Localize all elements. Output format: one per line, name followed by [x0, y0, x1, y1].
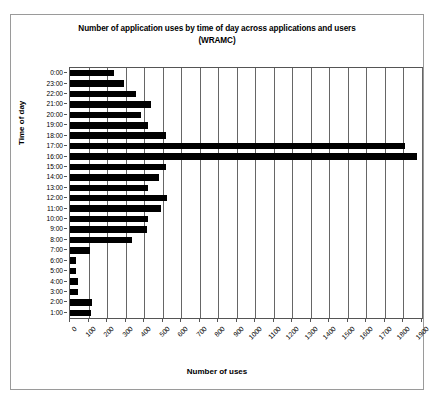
bar[interactable]	[70, 237, 132, 243]
bar-series	[70, 68, 422, 318]
y-tick-mark	[64, 197, 67, 198]
y-tick-mark	[64, 281, 67, 282]
bar-row	[70, 68, 422, 78]
bar[interactable]	[70, 247, 90, 253]
bar[interactable]	[70, 91, 136, 97]
bar[interactable]	[70, 164, 166, 170]
bar-row	[70, 120, 422, 130]
bar[interactable]	[70, 143, 405, 149]
y-tick-label: 22:00	[46, 90, 63, 97]
y-tick-label: 7:00	[50, 246, 63, 253]
bar[interactable]	[70, 70, 114, 76]
y-tick-label: 18:00	[46, 131, 63, 138]
y-tick-mark	[64, 156, 67, 157]
bar-row	[70, 78, 422, 88]
y-tick-label: 21:00	[46, 100, 63, 107]
chart-title: Number of application uses by time of da…	[11, 23, 423, 47]
bar-row	[70, 297, 422, 307]
bar[interactable]	[70, 101, 151, 107]
bar[interactable]	[70, 268, 76, 274]
bar[interactable]	[70, 205, 161, 211]
bar-row	[70, 256, 422, 266]
gridline	[422, 68, 423, 318]
y-tick-label: 15:00	[46, 162, 63, 169]
bar-row	[70, 172, 422, 182]
y-tick-label: 12:00	[46, 194, 63, 201]
bar[interactable]	[70, 226, 147, 232]
bar-row	[70, 308, 422, 318]
bar-row	[70, 235, 422, 245]
y-tick-mark	[64, 249, 67, 250]
y-tick-label: 6:00	[50, 256, 63, 263]
chart-title-line2: (WRAMC)	[11, 35, 423, 47]
y-tick-mark	[64, 239, 67, 240]
bar-row	[70, 162, 422, 172]
x-tick-mark	[273, 319, 274, 322]
bar[interactable]	[70, 174, 159, 180]
x-axis-tick-labels: 0100200300400500600700800900100011001200…	[69, 319, 421, 363]
y-tick-label: 5:00	[50, 267, 63, 274]
bar-row	[70, 99, 422, 109]
y-tick-label: 14:00	[46, 173, 63, 180]
bar[interactable]	[70, 185, 148, 191]
bar-row	[70, 266, 422, 276]
x-tick-mark	[236, 319, 237, 322]
bar[interactable]	[70, 80, 124, 86]
y-tick-mark	[64, 103, 67, 104]
bar[interactable]	[70, 216, 148, 222]
y-tick-mark	[64, 72, 67, 73]
y-tick-mark	[64, 291, 67, 292]
y-tick-label: 19:00	[46, 121, 63, 128]
y-tick-label: 16:00	[46, 152, 63, 159]
bar-row	[70, 89, 422, 99]
y-tick-mark	[64, 270, 67, 271]
y-tick-mark	[64, 93, 67, 94]
x-tick-mark	[106, 319, 107, 322]
y-tick-label: 9:00	[50, 225, 63, 232]
y-tick-mark	[64, 260, 67, 261]
bar[interactable]	[70, 278, 78, 284]
x-tick-mark	[180, 319, 181, 322]
x-tick-mark	[254, 319, 255, 322]
y-tick-mark	[64, 124, 67, 125]
bar[interactable]	[70, 153, 417, 159]
bar[interactable]	[70, 310, 91, 316]
chart-title-line1: Number of application uses by time of da…	[78, 24, 355, 33]
y-tick-mark	[64, 301, 67, 302]
bar-row	[70, 203, 422, 213]
y-tick-mark	[64, 176, 67, 177]
bar[interactable]	[70, 257, 76, 263]
bar[interactable]	[70, 195, 167, 201]
bar-row	[70, 276, 422, 286]
y-tick-mark	[64, 228, 67, 229]
y-tick-mark	[64, 114, 67, 115]
y-tick-label: 10:00	[46, 215, 63, 222]
x-tick-mark	[162, 319, 163, 322]
bar[interactable]	[70, 122, 148, 128]
x-tick-mark	[421, 319, 422, 322]
bar[interactable]	[70, 289, 78, 295]
bar[interactable]	[70, 112, 141, 118]
y-tick-label: 0:00	[50, 69, 63, 76]
x-tick-mark	[125, 319, 126, 322]
y-tick-label: 20:00	[46, 110, 63, 117]
bar-row	[70, 224, 422, 234]
bar-row	[70, 193, 422, 203]
bar-row	[70, 245, 422, 255]
y-tick-mark	[64, 312, 67, 313]
x-tick-mark	[310, 319, 311, 322]
y-tick-label: 23:00	[46, 79, 63, 86]
x-tick-mark	[365, 319, 366, 322]
y-tick-label: 1:00	[50, 308, 63, 315]
x-tick-mark	[217, 319, 218, 322]
x-tick-mark	[199, 319, 200, 322]
bar[interactable]	[70, 132, 166, 138]
bar[interactable]	[70, 299, 92, 305]
x-tick-mark	[291, 319, 292, 322]
x-tick-mark	[328, 319, 329, 322]
y-tick-label: 3:00	[50, 287, 63, 294]
plot-area	[69, 67, 423, 319]
x-tick-mark	[143, 319, 144, 322]
bar-row	[70, 183, 422, 193]
y-tick-label: 17:00	[46, 142, 63, 149]
